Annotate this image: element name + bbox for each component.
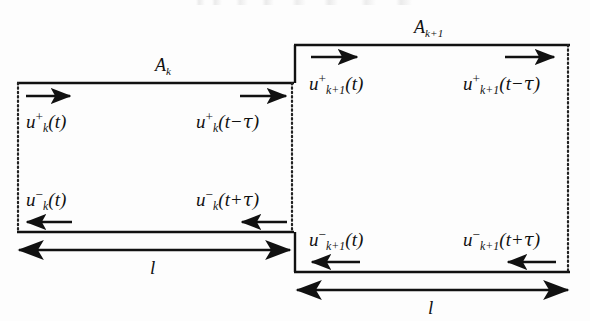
wave-k1-fout-delay: τ [524, 73, 534, 94]
wave-label-k-backward-out: u−k(t) [26, 188, 66, 212]
dimension-label-l-right: l [428, 298, 433, 317]
area-label-k1-base: A [414, 17, 425, 37]
wave-k1-bout-sup: − [319, 227, 327, 242]
wave-k1-fin-sub: k+1 [326, 84, 345, 97]
wave-label-k1-forward-out: u+k+1(t−τ) [463, 72, 540, 96]
wave-k1-fin-base: u [309, 73, 319, 94]
wave-label-k-forward-in: u+k(t) [26, 110, 66, 134]
wave-k-bin-op: + [230, 189, 243, 210]
wave-k1-fout-op: − [511, 73, 524, 94]
wave-k1-bin-paren-close: ) [534, 229, 540, 250]
dimension-label-l-left: l [150, 258, 155, 277]
wave-label-k1-backward-in: u−k+1(t+τ) [463, 228, 540, 252]
wave-label-k1-forward-in: u+k+1(t) [309, 72, 363, 96]
wave-k1-bin-sup: − [473, 227, 481, 242]
wave-k1-bin-sub: k+1 [480, 240, 499, 253]
wave-k1-fin-paren-close: ) [357, 73, 363, 94]
wave-k-bout-sup: − [36, 187, 44, 202]
wave-k1-bin-base: u [463, 229, 473, 250]
wave-k-fout-base: u [196, 111, 206, 132]
wave-label-k-forward-out: u+k(t−τ) [196, 110, 259, 134]
wave-k1-fout-paren-close: ) [534, 73, 540, 94]
diagram-canvas [0, 0, 590, 321]
wave-k1-bout-base: u [309, 229, 319, 250]
wave-k-fout-sup: + [206, 109, 214, 124]
wave-k-bin-delay: τ [243, 189, 253, 210]
area-label-k: Ak [155, 56, 171, 77]
wave-k1-bout-paren-close: ) [357, 229, 363, 250]
wave-k-bin-paren-close: ) [253, 189, 259, 210]
wave-k1-bout-sub: k+1 [326, 240, 345, 253]
wave-k1-fout-sub: k+1 [480, 84, 499, 97]
dimension-lines [19, 250, 568, 290]
area-label-k-base: A [155, 55, 166, 75]
duct-wave-diagram: Ak Ak+1 u+k(t) u+k(t−τ) u−k(t) u−k(t+τ) … [0, 0, 590, 321]
area-label-k-plus-1: Ak+1 [414, 18, 443, 39]
wave-k-fout-op: − [230, 111, 243, 132]
wave-k-bout-base: u [26, 189, 36, 210]
wave-k-bin-sup: − [206, 187, 214, 202]
wave-k-fin-base: u [26, 111, 36, 132]
wave-k1-fout-sup: + [473, 71, 481, 86]
wave-label-k-backward-in: u−k(t+τ) [196, 188, 259, 212]
area-label-k-subscript: k [166, 65, 171, 77]
wave-k-fout-delay: τ [243, 111, 253, 132]
wave-k1-fin-sup: + [319, 71, 327, 86]
wave-k-fin-paren-close: ) [60, 111, 66, 132]
wave-k-bout-paren-close: ) [60, 189, 66, 210]
wave-label-k1-backward-out: u−k+1(t) [309, 228, 363, 252]
wave-k1-bin-op: + [511, 229, 524, 250]
wave-k1-bin-delay: τ [524, 229, 534, 250]
wave-k1-fout-base: u [463, 73, 473, 94]
area-label-k1-subscript: k+1 [425, 27, 443, 39]
wave-k-fin-sup: + [36, 109, 44, 124]
wave-k-fout-paren-close: ) [253, 111, 259, 132]
wave-k-bin-base: u [196, 189, 206, 210]
